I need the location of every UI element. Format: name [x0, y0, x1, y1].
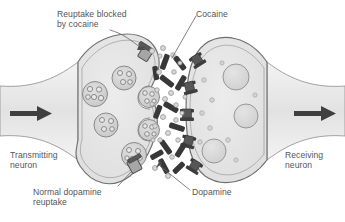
synapse-diagram: Reuptake blocked by cocaine Cocaine Tran…	[0, 0, 345, 222]
organelle	[223, 64, 249, 90]
dopamine-molecule	[151, 138, 155, 142]
vesicle-fusing	[139, 120, 160, 141]
dopamine-molecule	[157, 70, 162, 75]
cocaine-molecule	[172, 161, 186, 175]
label-normal-dopamine-reuptake: Normal dopamine reuptake	[33, 187, 102, 208]
dopamine-molecule	[161, 115, 166, 120]
dopamine-molecule	[153, 124, 158, 129]
dopamine-molecule	[158, 54, 162, 58]
cocaine-molecule	[168, 122, 185, 132]
organelle	[202, 139, 226, 163]
dopamine-molecule	[150, 102, 154, 106]
label-reuptake-blocked-by-cocaine: Reuptake blocked by cocaine	[57, 9, 127, 30]
dopamine-molecule	[166, 131, 171, 136]
dopamine-molecule	[176, 138, 181, 143]
dopamine-molecule	[169, 91, 174, 96]
cocaine-molecule	[159, 74, 175, 88]
dopamine-molecule	[161, 46, 166, 51]
dopamine-molecule	[150, 49, 155, 54]
dopamine-molecule	[174, 103, 179, 108]
dopamine-molecule	[174, 118, 179, 123]
dopamine-molecule	[178, 61, 182, 65]
dopamine-molecule	[155, 88, 160, 93]
dopamine-molecule	[153, 166, 158, 171]
dopamine-molecule	[158, 138, 163, 143]
dopamine-molecule	[180, 111, 184, 115]
vesicle	[94, 113, 118, 137]
label-receiving-neuron: Receiving neuron	[285, 150, 323, 171]
leader-cocaine	[172, 16, 196, 58]
vesicle	[112, 66, 136, 90]
organelle	[234, 104, 258, 128]
cocaine-molecule	[158, 158, 170, 175]
dopamine-molecule	[163, 97, 168, 102]
label-transmitting-neuron: Transmitting neuron	[10, 150, 58, 171]
dopamine-molecule	[172, 70, 177, 75]
dopamine-molecule	[170, 155, 175, 160]
label-cocaine: Cocaine	[196, 9, 228, 19]
label-dopamine: Dopamine	[192, 187, 232, 197]
vesicle	[83, 82, 108, 107]
dopamine-molecule	[183, 95, 187, 99]
